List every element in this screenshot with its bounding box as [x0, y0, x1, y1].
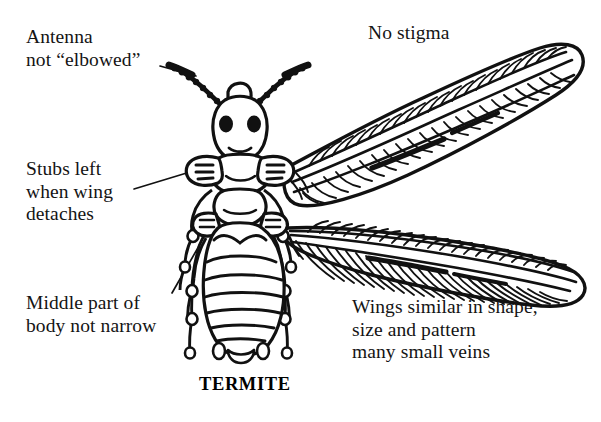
hindwing: [284, 221, 585, 306]
wing-stub-right: [258, 156, 294, 185]
wings-description-label: Wings similar in shape, size and pattern…: [352, 296, 538, 364]
wing-stubs-label: Stubs left when wing detaches: [26, 158, 113, 226]
compound-eye-right: [247, 116, 261, 133]
termite-figure: Antenna not “elbowed” Stubs left when wi…: [0, 0, 601, 422]
wing-stub-left: [186, 156, 222, 185]
forewing: [284, 44, 583, 205]
head: [213, 83, 267, 161]
compound-eye-left: [219, 116, 233, 133]
body-waist-label: Middle part of body not narrow: [26, 292, 156, 337]
antenna-label: Antenna not “elbowed”: [26, 26, 140, 71]
figure-caption: TERMITE: [199, 374, 291, 395]
no-stigma-label: No stigma: [368, 22, 450, 45]
abdomen: [203, 223, 284, 363]
